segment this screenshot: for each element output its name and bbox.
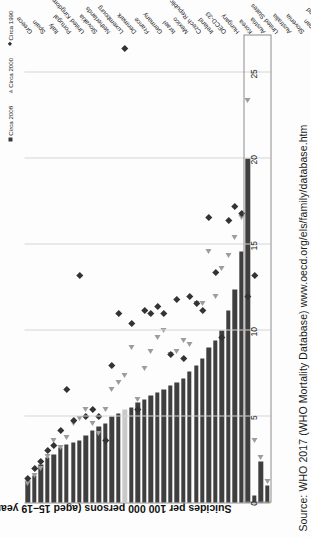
chart-row: Australia	[153, 39, 159, 502]
chart-row: Belgium	[179, 39, 185, 502]
chart-row: Germany	[89, 39, 95, 502]
marker-circa-1990	[179, 354, 185, 360]
legend-item-diamond-marker: Circa 1990	[6, 10, 13, 45]
chart-row: Netherlands	[63, 39, 69, 502]
chart-row: Sweden	[186, 39, 192, 502]
bar-circa-2008	[161, 389, 165, 502]
chart-row: Hungary	[128, 39, 134, 502]
gridline	[24, 329, 270, 330]
chart-row: Finland	[225, 39, 231, 502]
bar-circa-2008	[70, 442, 74, 502]
marker-circa-2000	[218, 266, 224, 271]
bar-circa-2008	[174, 382, 178, 502]
chart-row: New Zealand	[238, 39, 244, 502]
bar-circa-2008	[265, 485, 269, 502]
chart-row: Portugal	[43, 39, 49, 502]
bar-circa-2008	[180, 378, 184, 502]
bar-circa-2008	[44, 457, 48, 502]
bar-circa-2008	[167, 385, 171, 502]
gridline	[24, 415, 270, 416]
chart-row: OECD-33	[121, 39, 127, 502]
chart-row: Greece	[24, 39, 30, 502]
bar-circa-2008	[142, 399, 146, 502]
marker-circa-2000	[251, 438, 257, 443]
marker-circa-2000	[31, 472, 37, 477]
marker-circa-1990	[225, 217, 231, 223]
legend-item-triangle-marker: Circa 2000	[6, 57, 13, 93]
marker-circa-2000	[141, 365, 147, 370]
marker-circa-2000	[180, 338, 186, 343]
marker-circa-2000	[205, 249, 211, 254]
marker-circa-2000	[225, 252, 231, 257]
x-tick-label: 20	[248, 155, 258, 164]
marker-circa-2000	[89, 420, 95, 425]
marker-circa-2000	[63, 434, 69, 439]
marker-circa-2000	[173, 348, 179, 353]
chart-row: Ireland	[115, 39, 121, 502]
marker-circa-2000	[37, 465, 43, 470]
marker-circa-2000	[134, 396, 140, 401]
marker-circa-1990	[30, 464, 36, 470]
marker-circa-2000	[108, 386, 114, 391]
marker-circa-2000	[257, 455, 263, 460]
chart-row: France	[82, 39, 88, 502]
marker-circa-1990	[173, 296, 179, 302]
marker-circa-1990	[121, 45, 127, 51]
bar-circa-2008	[129, 407, 133, 502]
chart-row: Estonia	[205, 39, 211, 502]
marker-circa-1990	[141, 306, 147, 312]
bar-circa-2008	[64, 444, 68, 502]
legend-item-label: Circa 2008	[6, 105, 13, 135]
x-tick-label: 25	[248, 69, 258, 78]
bar-circa-2008	[116, 413, 120, 502]
legend-item-label: Circa 2000	[6, 57, 13, 87]
bar-circa-2008	[90, 430, 94, 502]
marker-circa-1990	[63, 385, 69, 391]
chart-row: Norway	[192, 39, 198, 502]
chart-row: Slovenia	[160, 39, 166, 502]
bar-circa-2008	[135, 402, 139, 502]
marker-circa-1990	[251, 272, 257, 278]
marker-circa-1990	[231, 203, 237, 209]
marker-circa-1990	[128, 320, 134, 326]
rotated-figure-canvas: Suicides per 100 000 persons (aged 15–19…	[0, 0, 311, 537]
bar-circa-2008	[122, 409, 126, 502]
marker-circa-1990	[37, 458, 43, 464]
bar-circa-2008	[200, 358, 204, 502]
chart-row: China	[251, 39, 257, 502]
triangle-marker-icon	[8, 89, 12, 93]
square-marker-icon	[8, 137, 12, 141]
chart-row: Israel	[95, 39, 101, 502]
chart-row: Poland	[231, 39, 237, 502]
bar-circa-2008	[213, 340, 217, 502]
marker-circa-2000	[95, 431, 101, 436]
chart-row: Korea	[134, 39, 140, 502]
marker-circa-2000	[244, 97, 250, 102]
chart-row: Italy	[37, 39, 43, 502]
chart-row: United States	[147, 39, 153, 502]
gridline	[24, 157, 270, 158]
chart-row: Spain	[30, 39, 36, 502]
marker-circa-2000	[102, 407, 108, 412]
bar-circa-2008	[187, 371, 191, 502]
chart-row: Russia	[244, 39, 250, 502]
chart-row: Canada	[212, 39, 218, 502]
marker-circa-1990	[147, 310, 153, 316]
chart-row: Chile	[218, 39, 224, 502]
chart-row: Poland	[199, 39, 205, 502]
x-tick-label: 0	[248, 501, 258, 506]
chart-row: Luxembourg	[69, 39, 75, 502]
bar-circa-2008	[83, 435, 87, 502]
y-axis-title: Suicides per 100 000 persons (aged 15–19…	[1, 502, 231, 514]
marker-circa-1990	[186, 293, 192, 299]
bar-rows: GreeceSpainItalyPortugalUnited KingdomSl…	[24, 39, 270, 502]
bar-circa-2008	[193, 365, 197, 502]
x-tick-label: 5	[248, 415, 258, 420]
gridline	[24, 243, 270, 244]
chart-row: Japan	[166, 39, 172, 502]
bar-circa-2008	[77, 440, 81, 502]
bar-circa-2008	[258, 461, 262, 502]
bar-circa-2008	[239, 251, 243, 502]
figure-page: Suicides per 100 000 persons (aged 15–19…	[0, 0, 311, 537]
chart-row: Mexico	[102, 39, 108, 502]
